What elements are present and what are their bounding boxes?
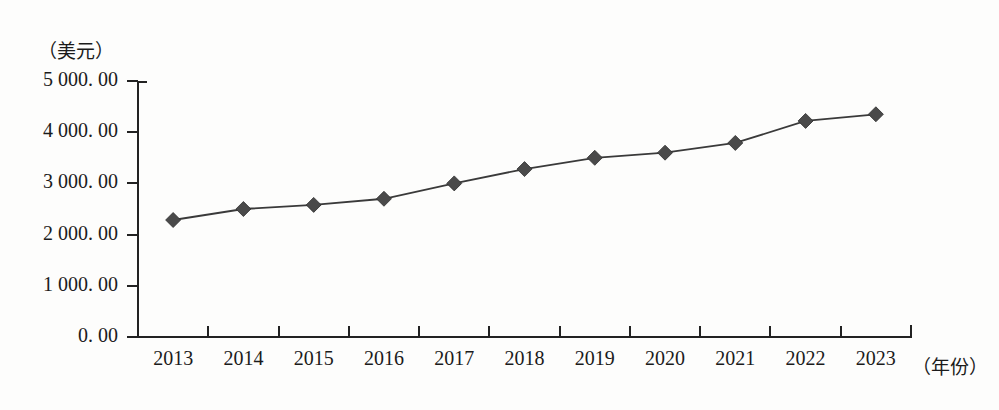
data-point-marker [447,176,462,191]
series-plot-area [0,0,999,410]
data-point-marker [166,213,181,228]
data-point-marker [868,107,883,122]
data-point-marker [517,162,532,177]
series-markers [166,107,884,228]
data-point-marker [587,150,602,165]
data-point-marker [798,113,813,128]
data-point-marker [658,145,673,160]
data-point-marker [306,197,321,212]
data-point-marker [376,191,391,206]
line-chart: （美元） （年份） 5 000. 004 000. 003 000. 002 0… [0,0,999,410]
data-point-marker [236,202,251,217]
data-point-marker [728,135,743,150]
